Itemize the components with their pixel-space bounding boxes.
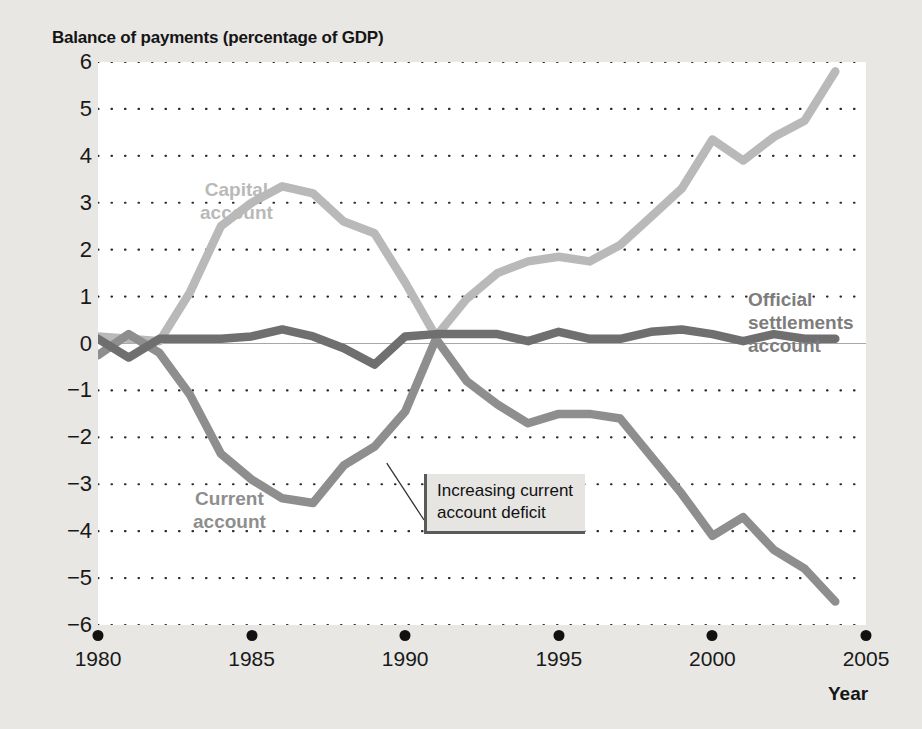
series-label-capital-line1: Capital [200, 178, 273, 201]
series-label-current-account: Current account [193, 487, 266, 533]
y-tick-label: 5 [46, 96, 92, 122]
annotation-increasing-current-account-deficit: Increasing current account deficit [424, 474, 585, 534]
series-line-official-settlements-account [98, 329, 835, 364]
annotation-leader-line [387, 463, 424, 520]
y-tick-label: 1 [46, 284, 92, 310]
x-tick-marker [400, 630, 411, 641]
x-tick-label: 1990 [382, 647, 429, 671]
series-label-current-line1: Current [193, 487, 266, 510]
x-tick-marker [861, 630, 872, 641]
x-tick-label: 1995 [535, 647, 582, 671]
y-axis-tick-labels: 6543210−1−2−3−4−5−6 [40, 62, 92, 625]
y-tick-label: 6 [46, 49, 92, 75]
series-label-official-line2: settlements [748, 311, 854, 334]
y-tick-label: −4 [46, 518, 92, 544]
series-label-capital-account: Capital account [200, 178, 273, 224]
series-label-official-settlements-account: Official settlements account [748, 288, 854, 358]
x-tick-label: 1985 [228, 647, 275, 671]
x-tick-label: 2000 [689, 647, 736, 671]
y-tick-label: −3 [46, 471, 92, 497]
x-tick-marker [246, 630, 257, 641]
y-tick-label: 3 [46, 190, 92, 216]
y-tick-label: −1 [46, 377, 92, 403]
x-tick-label: 2005 [843, 647, 890, 671]
x-axis-tick-labels: 198019851990199520002005 [98, 625, 866, 695]
y-tick-label: −5 [46, 565, 92, 591]
x-axis-title: Year [828, 683, 868, 705]
y-tick-label: 2 [46, 237, 92, 263]
y-tick-label: −2 [46, 424, 92, 450]
y-tick-label: 4 [46, 143, 92, 169]
series-label-capital-line2: account [200, 201, 273, 224]
y-tick-label: 0 [46, 331, 92, 357]
x-tick-marker [707, 630, 718, 641]
series-label-official-line1: Official [748, 288, 854, 311]
series-line-current-account [98, 334, 835, 601]
y-tick-label: −6 [46, 612, 92, 638]
chart-title: Balance of payments (percentage of GDP) [52, 28, 383, 48]
series-label-official-line3: account [748, 334, 854, 357]
chart-page: Balance of payments (percentage of GDP) … [0, 0, 922, 729]
series-label-current-line2: account [193, 510, 266, 533]
x-tick-label: 1980 [75, 647, 122, 671]
x-tick-marker [93, 630, 104, 641]
annotation-line1: Increasing current [437, 480, 573, 502]
annotation-line2: account deficit [437, 502, 573, 524]
x-tick-marker [553, 630, 564, 641]
